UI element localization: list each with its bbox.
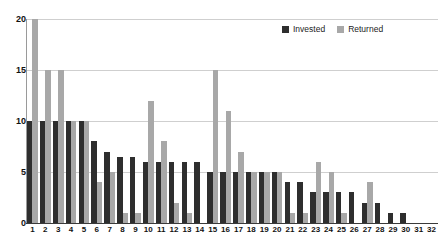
bar-group: [271, 19, 284, 223]
x-tick-label: 25: [335, 226, 348, 242]
x-tick-label: 17: [232, 226, 245, 242]
x-tick-label: 13: [181, 226, 194, 242]
bar-group: [181, 19, 194, 223]
bar-group: [168, 19, 181, 223]
bar-returned: [316, 162, 321, 223]
bar-invested: [400, 213, 405, 223]
bar-group: [206, 19, 219, 223]
x-tick-label: 30: [399, 226, 412, 242]
x-tick-label: 14: [193, 226, 206, 242]
bar-group: [90, 19, 103, 223]
x-tick-label: 23: [309, 226, 322, 242]
x-tick-label: 15: [206, 226, 219, 242]
bar-group: [348, 19, 361, 223]
bar-group: [361, 19, 374, 223]
bar-invested: [388, 213, 393, 223]
x-tick-label: 4: [65, 226, 78, 242]
bar-group: [52, 19, 65, 223]
x-tick-label: 12: [168, 226, 181, 242]
bar-invested: [194, 162, 199, 223]
y-tick-label: 20: [6, 15, 26, 24]
x-tick-label: 24: [322, 226, 335, 242]
bar-returned: [45, 70, 50, 223]
x-tick-label: 3: [52, 226, 65, 242]
bar-group: [142, 19, 155, 223]
bar-group: [309, 19, 322, 223]
bar-invested: [375, 203, 380, 223]
x-tick-label: 18: [245, 226, 258, 242]
bar-returned: [329, 172, 334, 223]
bar-group: [65, 19, 78, 223]
bar-group: [78, 19, 91, 223]
bar-group: [322, 19, 335, 223]
x-tick-label: 29: [387, 226, 400, 242]
x-tick-label: 22: [296, 226, 309, 242]
x-tick-label: 27: [361, 226, 374, 242]
bar-returned: [251, 172, 256, 223]
bar-group: [399, 19, 412, 223]
y-tick-label: 0: [6, 219, 26, 228]
x-tick-label: 7: [103, 226, 116, 242]
bar-returned: [161, 141, 166, 223]
bar-returned: [213, 70, 218, 223]
x-tick-label: 9: [129, 226, 142, 242]
x-tick-label: 5: [78, 226, 91, 242]
x-tick-label: 20: [271, 226, 284, 242]
bar-returned: [277, 172, 282, 223]
bar-group: [155, 19, 168, 223]
x-tick-label: 16: [219, 226, 232, 242]
bar-invested: [349, 192, 354, 223]
bar-returned: [58, 70, 63, 223]
x-tick-label: 11: [155, 226, 168, 242]
x-tick-label: 32: [425, 226, 438, 242]
bar-group: [129, 19, 142, 223]
bar-returned: [71, 121, 76, 223]
x-tick-label: 8: [116, 226, 129, 242]
bar-returned: [135, 213, 140, 223]
bar-returned: [123, 213, 128, 223]
bar-returned: [226, 111, 231, 223]
x-tick-label: 26: [348, 226, 361, 242]
x-tick-label: 31: [412, 226, 425, 242]
bar-group: [387, 19, 400, 223]
bar-returned: [32, 19, 37, 223]
bars-layer: [26, 19, 438, 223]
x-axis-labels: 1234567891011121314151617181920212223242…: [26, 226, 438, 242]
y-tick-label: 10: [6, 117, 26, 126]
x-tick-label: 19: [258, 226, 271, 242]
x-tick-label: 21: [284, 226, 297, 242]
x-tick-label: 1: [26, 226, 39, 242]
bar-returned: [341, 213, 346, 223]
x-tick-label: 2: [39, 226, 52, 242]
bar-chart: InvestedReturned 05101520 12345678910111…: [0, 0, 448, 247]
bar-group: [284, 19, 297, 223]
y-tick-label: 5: [6, 168, 26, 177]
bar-group: [232, 19, 245, 223]
bar-returned: [264, 172, 269, 223]
bar-group: [26, 19, 39, 223]
bar-group: [245, 19, 258, 223]
bar-returned: [187, 213, 192, 223]
bar-returned: [148, 101, 153, 223]
bar-group: [374, 19, 387, 223]
bar-returned: [367, 182, 372, 223]
bar-returned: [97, 182, 102, 223]
bar-returned: [110, 172, 115, 223]
x-tick-label: 6: [90, 226, 103, 242]
bar-returned: [238, 152, 243, 223]
bar-group: [296, 19, 309, 223]
bar-group: [39, 19, 52, 223]
bar-returned: [84, 121, 89, 223]
bar-group: [193, 19, 206, 223]
bar-group: [335, 19, 348, 223]
bar-returned: [174, 203, 179, 223]
x-tick-label: 10: [142, 226, 155, 242]
bar-group: [219, 19, 232, 223]
bar-group: [258, 19, 271, 223]
bar-group: [116, 19, 129, 223]
bar-group: [103, 19, 116, 223]
bar-returned: [290, 213, 295, 223]
bar-group: [425, 19, 438, 223]
bar-returned: [303, 213, 308, 223]
bar-group: [412, 19, 425, 223]
